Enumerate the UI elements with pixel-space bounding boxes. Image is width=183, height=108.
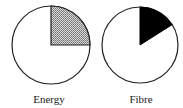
energy-slice [51,6,90,45]
energy-pie-chart [11,0,91,90]
fibre-pie-svg [100,0,180,90]
fibre-pie-chart [100,0,180,90]
fibre-label: Fibre [106,93,176,105]
energy-label: Energy [14,93,84,105]
energy-pie-svg [11,0,91,90]
